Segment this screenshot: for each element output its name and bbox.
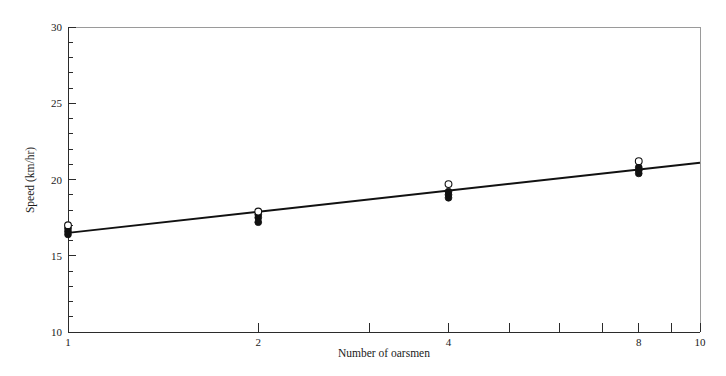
scatter-plot-canvas: 1015202530 124810 Number of oarsmen Spee…	[0, 0, 726, 376]
x-axis-title: Number of oarsmen	[338, 347, 430, 359]
y-tick-label: 30	[51, 21, 63, 33]
open-circle-series	[65, 158, 643, 229]
y-tick-label: 20	[51, 174, 63, 186]
fitted-trend-line	[68, 163, 700, 233]
y-tick-label: 15	[51, 250, 63, 262]
y-axis-ticks	[68, 27, 76, 332]
x-tick-label: 2	[256, 336, 262, 348]
trend-line-segment	[68, 163, 700, 233]
data-point-filled	[635, 170, 642, 177]
data-point-open	[635, 158, 642, 165]
y-tick-label: 10	[51, 326, 63, 338]
plot-frame	[68, 27, 700, 332]
y-axis-title: Speed (km/hr)	[24, 147, 37, 213]
data-point-open	[255, 208, 262, 215]
data-point-open	[445, 181, 452, 188]
chart-figure: 1015202530 124810 Number of oarsmen Spee…	[0, 0, 726, 376]
x-tick-label: 1	[65, 336, 71, 348]
x-tick-label: 10	[695, 336, 707, 348]
x-tick-label: 4	[446, 336, 452, 348]
data-point-open	[65, 222, 72, 229]
x-axis-ticks	[68, 323, 700, 332]
y-axis-tick-labels: 1015202530	[51, 21, 63, 338]
data-point-filled	[65, 231, 72, 238]
data-point-filled	[255, 219, 262, 226]
x-tick-label: 8	[636, 336, 642, 348]
data-point-filled	[445, 194, 452, 201]
y-tick-label: 25	[51, 97, 63, 109]
